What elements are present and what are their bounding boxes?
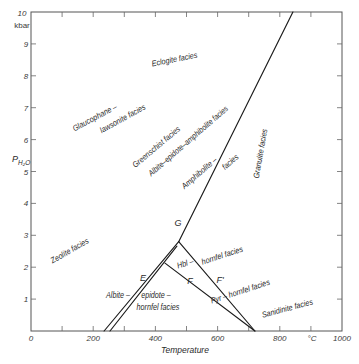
y-tick-label: 2: [23, 263, 29, 272]
E-inner-boundary-line: [110, 246, 177, 331]
y-axis-tick-labels: 123456789: [23, 40, 29, 304]
y-tick-label: 1: [24, 295, 28, 304]
point-G-label: G: [174, 218, 181, 228]
y-tick-label: 9: [24, 40, 29, 49]
x-tick-label: 200: [86, 334, 101, 343]
y-tick-label: 5: [24, 168, 29, 177]
metamorphic-facies-diagram: 10 kbar 123456789 PH₂O 02004006008001000…: [0, 0, 359, 364]
y-axis-label: PH₂O: [12, 154, 30, 166]
point-E-label: E: [140, 273, 147, 283]
x-axis-label: Temperature: [161, 345, 209, 355]
zeolite-facies-label: Zeolite facies: [48, 236, 90, 266]
x-tick-label: 1000: [333, 334, 351, 343]
y-axis-unit: kbar: [14, 21, 30, 30]
albite-epidote-hornfels-label-line1: Albite –: [105, 291, 131, 301]
E-outer-boundary-line: [104, 242, 179, 331]
y-tick-label: 7: [24, 104, 29, 113]
y-axis-label-sub: H₂O: [18, 159, 30, 166]
amphibolite-label-line2: facies: [220, 152, 241, 172]
point-F-prime-label: F': [216, 275, 223, 285]
granulite-facies-label: Granulite facies: [251, 128, 269, 179]
hbl-hornfels-label-part1: Hbl –: [176, 256, 196, 270]
x-tick-label: 400: [149, 334, 163, 343]
y-axis-top-label: 10: [18, 9, 27, 18]
albite-epidote-hornfels-label-line2: epidote –: [141, 291, 171, 301]
x-axis-tick-labels: 02004006008001000: [29, 334, 352, 343]
albite-epidote-hornfels-label-line3: hornfel facies: [137, 303, 180, 313]
hbl-hornfels-label-part2: hornfel facies: [200, 244, 244, 266]
eclogite-facies-label: Eclogite facies: [151, 50, 199, 68]
y-tick-label: 3: [24, 231, 29, 240]
sanidinite-facies-label: Sanidinite facies: [261, 297, 314, 320]
x-axis-unit: °C: [308, 334, 317, 343]
x-tick-label: 800: [273, 334, 287, 343]
y-tick-label: 8: [24, 72, 29, 81]
y-tick-label: 6: [24, 136, 29, 145]
point-F-label: F: [187, 276, 193, 286]
x-tick-label: 600: [211, 334, 225, 343]
y-tick-label: 4: [24, 199, 29, 208]
x-tick-label: 0: [29, 334, 34, 343]
